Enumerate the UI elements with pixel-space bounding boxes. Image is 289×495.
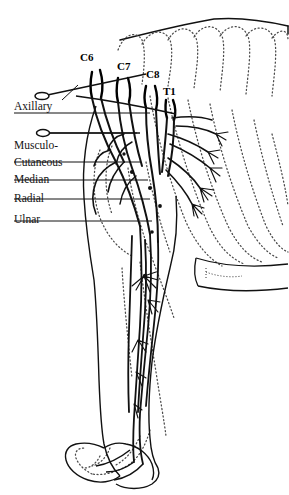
nerve-label-median: Median — [14, 173, 49, 185]
nerve-label-musculo: Musculo- — [14, 139, 58, 151]
dorsal-outline — [120, 18, 288, 40]
rib-cage-dotted — [75, 27, 288, 475]
sternum-mark — [206, 268, 242, 278]
root-label-c7: C7 — [117, 60, 130, 72]
anatomical-illustration — [0, 0, 289, 495]
root-label-c6: C6 — [80, 51, 93, 63]
nerve-label-ulnar: Ulnar — [14, 213, 40, 225]
nerve-label-axillary: Axillary — [14, 100, 52, 112]
root-label-c8: C8 — [146, 68, 159, 80]
vertebral-floor — [76, 96, 176, 114]
nerve-label-radial: Radial — [14, 192, 44, 204]
leader-axillary-pointer — [62, 85, 78, 100]
root-label-t1: T1 — [163, 85, 176, 97]
nerve-label-cutaneous: Cutaneous — [14, 156, 63, 168]
brachial-plexus — [92, 98, 228, 464]
